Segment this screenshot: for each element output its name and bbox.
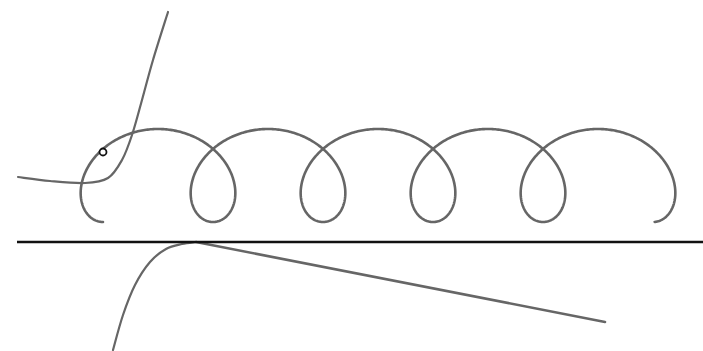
lower-tangent-curve (113, 242, 196, 350)
figure-canvas (0, 0, 703, 351)
point-marker (100, 149, 107, 156)
tangent-line (196, 242, 605, 322)
looping-curve (81, 129, 676, 222)
